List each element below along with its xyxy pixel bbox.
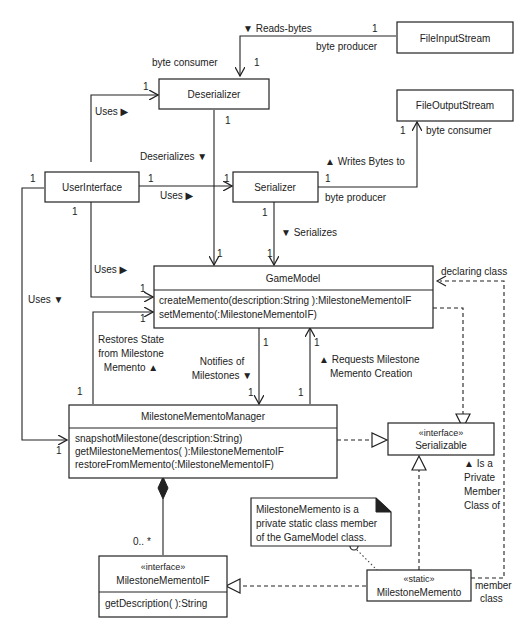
svg-text:byte producer: byte producer [316,41,378,52]
interface-serializable[interactable]: «interface» Serializable [388,423,494,455]
assoc-restores-state: Restores State from Milestone Memento ▲ … [77,312,165,404]
svg-text:1: 1 [72,206,78,217]
method: setMemento(:MilestoneMementoIF) [159,309,317,320]
svg-text:1: 1 [314,337,320,348]
svg-text:1: 1 [225,115,231,126]
svg-text:1: 1 [262,207,268,218]
class-user-interface[interactable]: UserInterface [45,172,139,202]
note-milestone-memento: MilestoneMemento is a private static cla… [251,498,391,546]
svg-text:GameModel: GameModel [266,273,320,284]
uml-class-diagram: ▼ Reads-bytes 1 byte producer byte consu… [0,0,527,630]
assoc-ui-uses-gamemodel: 1 Uses ▶ 1 [72,202,153,297]
svg-text:1: 1 [140,313,146,324]
class-file-input-stream[interactable]: FileInputStream [397,22,513,53]
svg-text:1: 1 [267,248,273,259]
svg-text:1: 1 [298,387,304,398]
assoc-requests: ▲ Requests Milestone Memento Creation 1 … [298,328,420,404]
svg-text:Deserializer: Deserializer [188,89,241,100]
svg-text:MilestoneMementoIF: MilestoneMementoIF [116,575,209,586]
class-milestone-memento-manager[interactable]: MilestoneMementoManager snapshotMileston… [69,405,337,478]
assoc-writes-bytes: ▲ Writes Bytes to 1 byte producer 1 byte… [318,122,492,203]
svg-text:Milestones ▼: Milestones ▼ [192,370,252,381]
interface-milestone-memento-if[interactable]: «interface» MilestoneMementoIF getDescri… [99,556,227,617]
svg-text:0.. *: 0.. * [133,536,151,547]
svg-text:declaring class: declaring class [441,266,507,277]
realization-memento-mementoif [226,579,366,593]
svg-text:Uses ▶: Uses ▶ [95,106,129,117]
svg-text:FileOutputStream: FileOutputStream [416,100,494,111]
svg-text:«interface»: «interface» [419,428,464,438]
svg-text:MilestoneMementoManager: MilestoneMementoManager [141,411,266,422]
svg-text:«static»: «static» [403,574,434,584]
svg-text:1: 1 [263,337,269,348]
svg-text:Uses ▶: Uses ▶ [94,264,128,275]
method: createMemento(description:String ):Miles… [159,295,411,306]
svg-text:▲ Writes Bytes to: ▲ Writes Bytes to [325,156,405,167]
class-deserializer[interactable]: Deserializer [159,79,269,109]
svg-text:▼ Serializes: ▼ Serializes [281,227,337,238]
svg-text:1: 1 [224,173,230,184]
svg-text:UserInterface: UserInterface [62,182,122,193]
svg-text:1: 1 [217,248,223,259]
svg-text:Class of: Class of [464,500,500,511]
svg-text:Member: Member [464,486,501,497]
assoc-ui-uses-manager: 1 Uses ▼ 1 [22,173,67,456]
class-serializer[interactable]: Serializer [233,172,318,202]
svg-text:MilestoneMemento: MilestoneMemento [377,587,462,598]
composition-manager-mementoif: 0.. * [133,477,168,555]
svg-text:member: member [475,580,512,591]
svg-text:byte producer: byte producer [325,192,387,203]
svg-text:«interface»: «interface» [141,562,186,572]
svg-text:1: 1 [56,445,62,456]
svg-text:1: 1 [148,173,154,184]
assoc-reads-bytes: ▼ Reads-bytes 1 byte producer byte consu… [152,23,396,76]
realization-manager-serializable [337,433,387,447]
assoc-ui-uses-deserializer: Uses ▶ 1 [91,81,158,162]
svg-text:byte consumer: byte consumer [426,125,492,136]
svg-text:MilestoneMemento is a: MilestoneMemento is a [256,504,359,515]
svg-text:FileInputStream: FileInputStream [420,33,491,44]
assoc-ui-uses-serializer: 1 Uses ▶ 1 [139,173,232,201]
assoc-deserializes: Deserializes ▼ 1 1 [140,110,231,265]
svg-text:1: 1 [248,387,254,398]
svg-text:Uses ▼: Uses ▼ [28,294,63,305]
realization-gamemodel-serializable [433,308,470,428]
svg-text:Restores State: Restores State [98,334,165,345]
svg-text:private static class member: private static class member [256,518,378,529]
svg-text:1: 1 [143,81,149,92]
svg-text:Deserializes ▼: Deserializes ▼ [140,151,207,162]
svg-text:Serializable: Serializable [415,440,467,451]
svg-text:1: 1 [325,173,331,184]
assoc-label: ▼ Reads-bytes [243,23,312,34]
assoc-serializes: ▼ Serializes 1 1 [262,202,337,265]
svg-text:Memento ▲: Memento ▲ [104,362,158,373]
class-game-model[interactable]: GameModel createMemento(description:Stri… [154,266,433,328]
class-milestone-memento[interactable]: «static» MilestoneMemento [367,570,471,601]
svg-text:1: 1 [140,283,146,294]
svg-text:Notifies of: Notifies of [200,356,245,367]
method: getMilestoneMementos( ):MilestoneMemento… [75,446,284,457]
svg-text:1: 1 [30,173,36,184]
realization-memento-serializable [412,456,426,570]
method: restoreFromMemento(:MilestoneMementoIF) [75,459,274,470]
method: snapshotMilestone(description:String) [75,433,242,444]
svg-text:1: 1 [400,125,406,136]
assoc-notifies: Notifies of Milestones ▼ 1 1 [192,328,269,404]
svg-text:1: 1 [372,23,378,34]
svg-text:Uses ▶: Uses ▶ [160,190,194,201]
method: getDescription( ):String [105,598,207,609]
svg-text:1: 1 [77,386,83,397]
svg-text:Serializer: Serializer [254,182,296,193]
svg-text:Memento Creation: Memento Creation [330,368,412,379]
svg-text:from Milestone: from Milestone [98,348,164,359]
svg-text:1: 1 [254,57,260,68]
svg-text:▲ Is a: ▲ Is a [464,458,493,469]
svg-text:▲ Requests Milestone: ▲ Requests Milestone [319,354,420,365]
svg-text:byte consumer: byte consumer [152,57,218,68]
svg-text:class: class [480,593,503,604]
class-file-output-stream[interactable]: FileOutputStream [397,90,513,121]
svg-text:Private: Private [464,472,496,483]
svg-text:of the GameModel class.: of the GameModel class. [256,532,367,543]
